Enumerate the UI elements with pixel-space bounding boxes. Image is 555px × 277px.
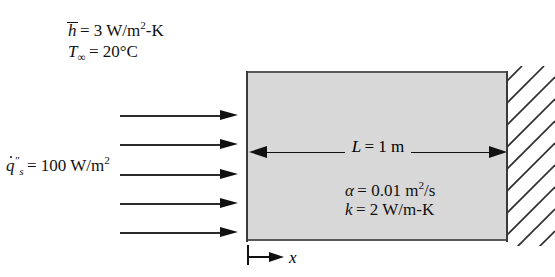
figure-canvas: h = 3 W/m2-K T∞ = 20°C q″s = 100 W/m2 xyxy=(0,0,555,277)
heat-flux-arrow xyxy=(120,169,240,180)
ambient-temperature-label: T∞ = 20°C xyxy=(68,43,138,64)
h-bar-symbol: h xyxy=(68,21,77,40)
L-symbol: L xyxy=(352,137,361,156)
arrow-shaft xyxy=(120,203,223,205)
arrow-shaft xyxy=(120,174,223,176)
x-axis-indicator: x xyxy=(247,245,347,271)
h-unit-tail: -K xyxy=(146,21,164,40)
axis-arrow-head-icon xyxy=(269,252,284,262)
h-value-text: = 3 W/m xyxy=(80,21,140,40)
arrow-shaft xyxy=(120,232,223,234)
heat-flux-arrow xyxy=(120,227,240,238)
length-label: L = 1 m xyxy=(345,137,412,157)
length-label-wrap: L = 1 m xyxy=(249,137,507,157)
heat-flux-arrow xyxy=(120,198,240,209)
hatching-lines-icon xyxy=(508,66,555,246)
heat-flux-arrow xyxy=(120,110,240,121)
convection-coefficient-label: h = 3 W/m2-K xyxy=(68,20,164,40)
slab-top-edge xyxy=(247,71,508,73)
arrow-shaft xyxy=(120,144,223,146)
flux-unit-exponent: 2 xyxy=(104,154,110,166)
arrow-head-icon xyxy=(220,110,238,120)
alpha-symbol: α xyxy=(345,181,354,200)
flux-value-text: = 100 W/m xyxy=(27,156,104,175)
x-axis-label: x xyxy=(289,248,297,268)
arrow-head-icon xyxy=(220,169,238,179)
surface-heat-flux-label: q″s = 100 W/m2 xyxy=(6,155,110,178)
slab-bottom-edge xyxy=(247,239,508,241)
alpha-unit-tail: /s xyxy=(424,181,435,200)
arrow-head-icon xyxy=(220,198,238,208)
k-value-text: = 2 W/m-K xyxy=(356,200,434,219)
arrow-shaft xyxy=(120,115,223,117)
k-symbol: k xyxy=(345,200,353,219)
arrow-head-icon xyxy=(220,227,238,237)
arrow-head-icon xyxy=(220,139,238,149)
alpha-value-text: = 0.01 m xyxy=(357,181,418,200)
length-dimension: L = 1 m xyxy=(249,146,507,159)
q-dot-symbol: q xyxy=(6,157,15,175)
fixed-wall-hatching xyxy=(508,66,555,246)
L-value-text: = 1 m xyxy=(365,137,405,156)
thermal-conductivity-label: k = 2 W/m-K xyxy=(345,201,434,219)
thermal-diffusivity-label: α = 0.01 m2/s xyxy=(345,180,435,200)
tinf-value-text: = 20°C xyxy=(89,42,138,61)
axis-origin-tick xyxy=(247,245,249,265)
heat-flux-arrow xyxy=(120,139,240,150)
